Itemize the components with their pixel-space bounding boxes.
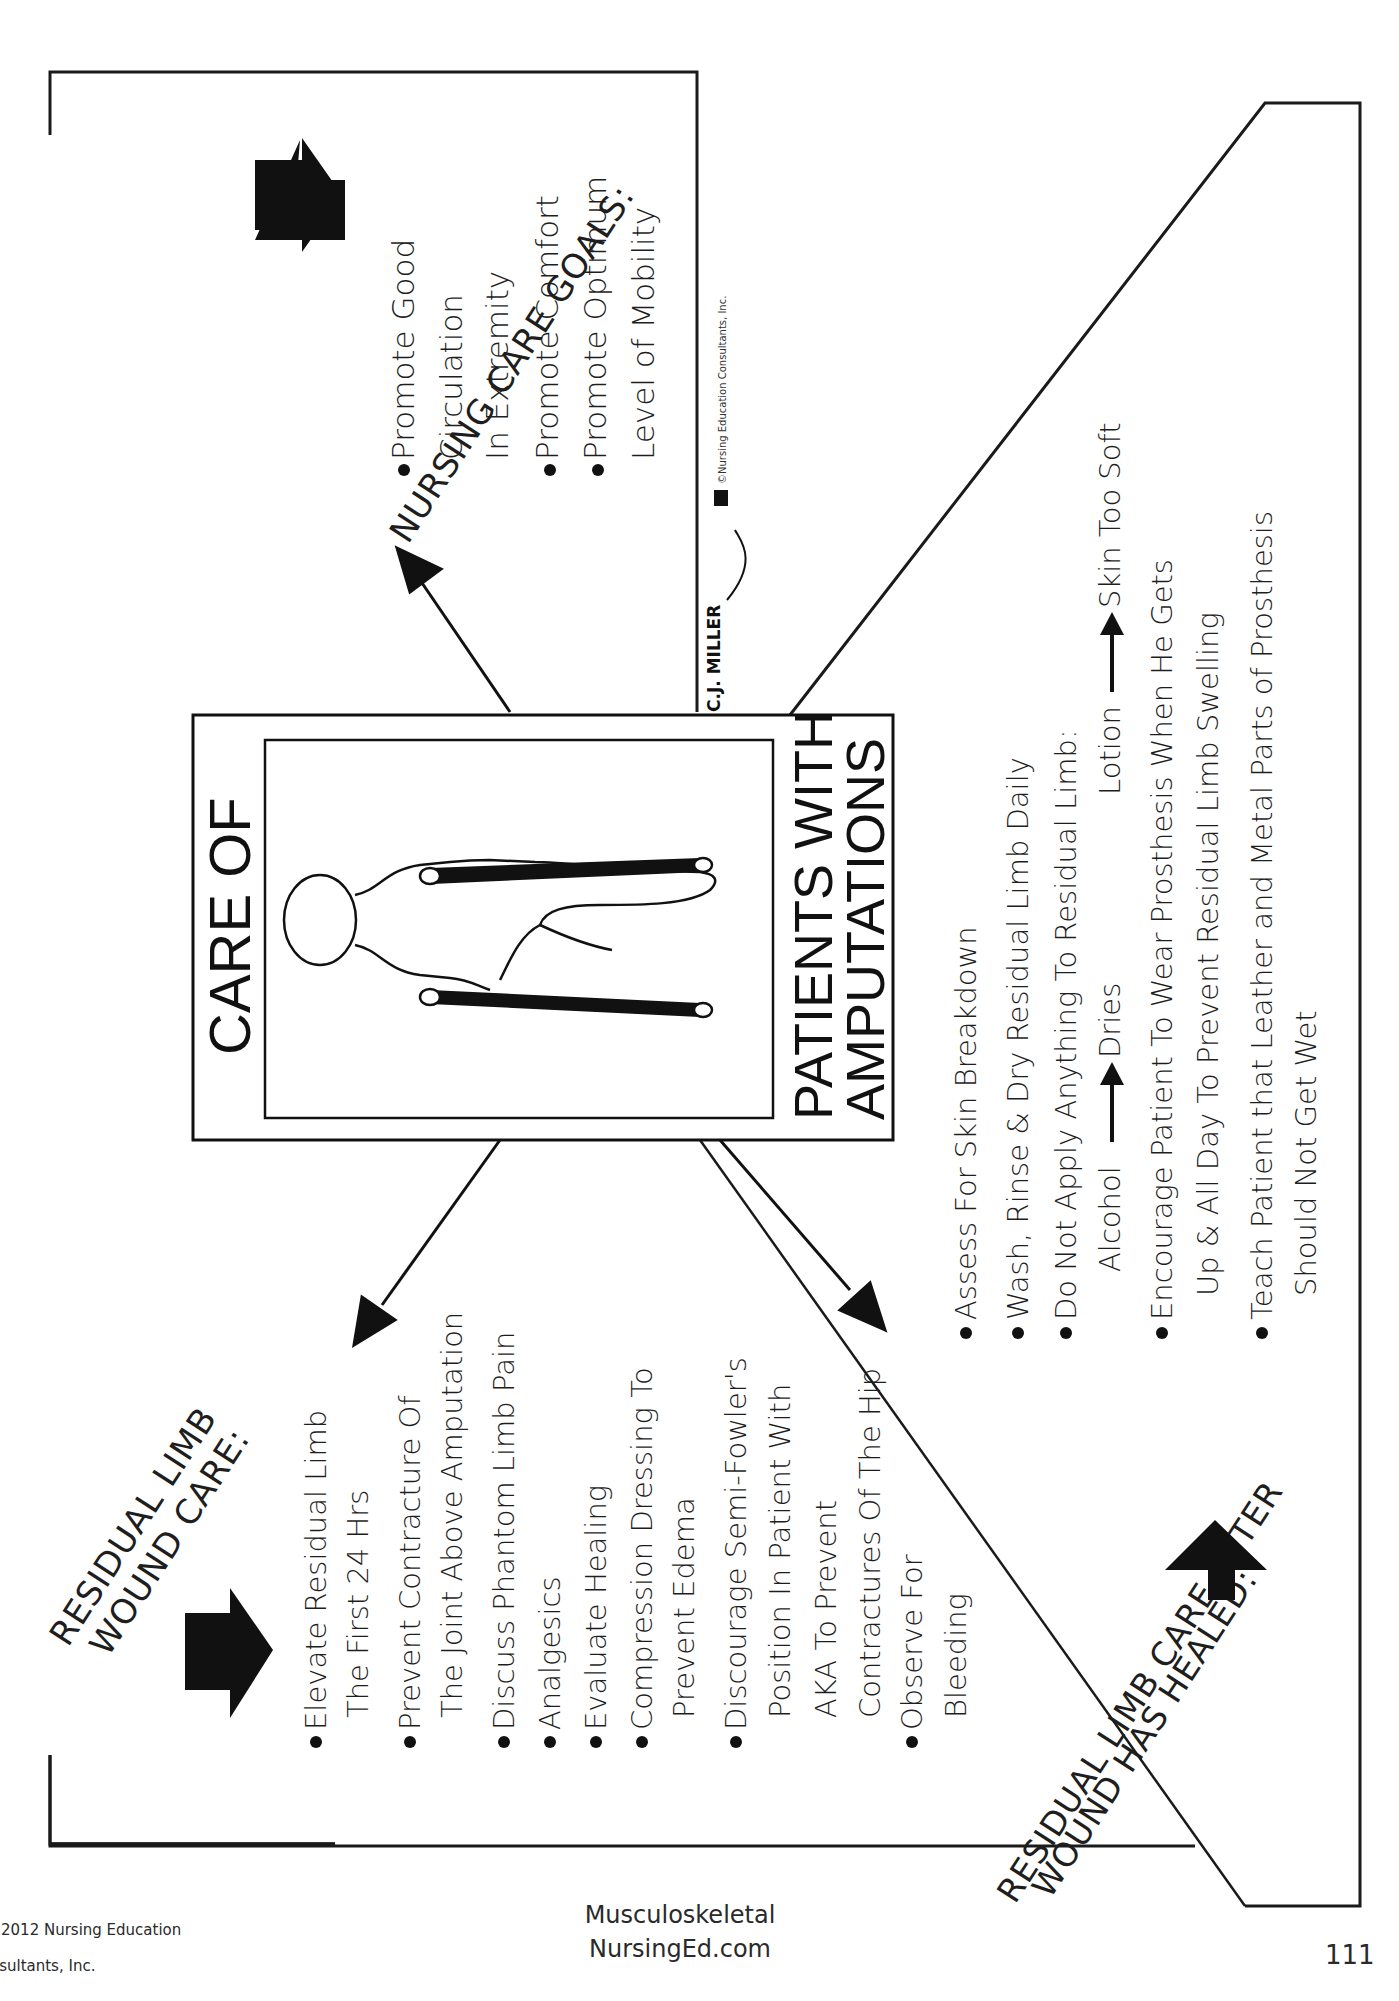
nursing-goals-section: NURSING CARE GOALS: Promote Good Circula… [255, 138, 661, 549]
center-card: CARE OF PATIENTS WITH AMPUTATIONS [193, 711, 895, 1140]
footer-copyright: ©2012 Nursing Education Consultants, Inc… [0, 1912, 181, 1984]
svg-text:Circulation: Circulation [433, 294, 469, 460]
arrow-to-wound-care [354, 1140, 500, 1345]
arrow-to-goals [397, 548, 510, 712]
after-healed-section: RESIDUAL LIMB CARE AFTER WOUND HAS HEALE… [989, 1474, 1291, 1910]
card-title-line1: PATIENTS WITH [783, 711, 843, 1120]
svg-text:C.J. MILLER: C.J. MILLER [704, 605, 724, 712]
svg-text:Promote Comfort: Promote Comfort [529, 195, 565, 460]
svg-text:Promote Optimum: Promote Optimum [577, 176, 613, 460]
block-arrow-icon [185, 1588, 273, 1718]
footer-title: Musculoskeletal NursingEd.com [560, 1898, 800, 1966]
after-healed-heading-1: RESIDUAL LIMB CARE AFTER [989, 1474, 1291, 1910]
copyright-mark: ©Nursing Education Consultants, Inc. [714, 296, 728, 506]
wound-care-section: RESIDUAL LIMB WOUND CARE: [41, 1400, 273, 1718]
svg-text:Promote Good: Promote Good [385, 239, 421, 460]
page-number: 111 [1325, 1940, 1375, 1970]
bottom-left-frame [50, 1755, 1195, 1846]
svg-text:Level of Mobility: Level of Mobility [625, 207, 661, 460]
arrow-to-after-healed [720, 1140, 885, 1330]
card-title-line2: AMPUTATIONS [835, 738, 895, 1120]
card-title-top: CARE OF [197, 797, 262, 1055]
svg-text:©Nursing Education Consultants: ©Nursing Education Consultants, Inc. [717, 296, 728, 484]
svg-text:In Extremity: In Extremity [479, 271, 515, 460]
signature: C.J. MILLER [704, 530, 746, 712]
after-healed-heading-2: WOUND HAS HEALED: [1024, 1562, 1265, 1905]
worksheet-canvas: CARE OF PATIENTS WITH AMPUTATIONS [0, 0, 1399, 2001]
